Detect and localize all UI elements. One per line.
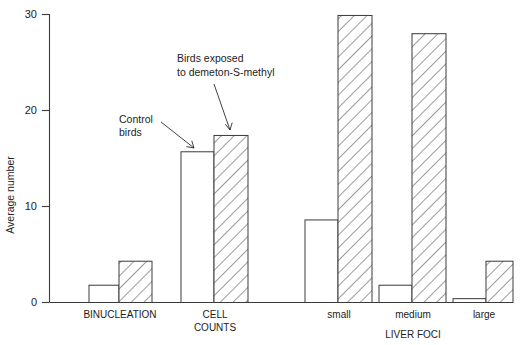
y-tick-label-20: 20 xyxy=(25,104,37,116)
bar-control-cell-counts xyxy=(181,152,214,303)
bar-control-binucleation xyxy=(89,285,119,302)
y-tick-label-0: 0 xyxy=(31,296,37,308)
x-label-large: large xyxy=(473,309,496,320)
bar-exposed-large xyxy=(486,261,513,302)
y-tick-label-10: 10 xyxy=(25,200,37,212)
y-axis-title: Average number xyxy=(4,156,16,234)
bar-exposed-cell-counts xyxy=(214,135,248,302)
chart-background xyxy=(0,0,527,345)
annotation-control-line1: Control xyxy=(119,113,153,125)
bar-control-small xyxy=(305,220,338,303)
bar-exposed-medium xyxy=(412,34,446,303)
annotation-exposed-line1: Birds exposed xyxy=(177,52,244,64)
bar-control-large xyxy=(453,299,486,303)
x-group-label-liver-foci: LIVER FOCI xyxy=(385,329,441,340)
bar-exposed-small xyxy=(338,15,372,302)
x-label-counts: COUNTS xyxy=(194,322,237,333)
x-label-small: small xyxy=(327,309,350,320)
annotation-exposed-line2: to demeton-S-methyl xyxy=(177,66,274,78)
x-label-medium: medium xyxy=(395,309,431,320)
chart-svg: 0 10 20 30 Average number BINUCLEATION C… xyxy=(0,0,527,345)
y-tick-label-30: 30 xyxy=(25,8,37,20)
annotation-control-line2: birds xyxy=(119,126,142,138)
bar-control-medium xyxy=(379,285,412,302)
bar-exposed-binucleation xyxy=(119,261,152,302)
x-label-cell: CELL xyxy=(202,309,227,320)
bar-chart: 0 10 20 30 Average number BINUCLEATION C… xyxy=(0,0,527,345)
x-label-binucleation: BINUCLEATION xyxy=(83,309,156,320)
